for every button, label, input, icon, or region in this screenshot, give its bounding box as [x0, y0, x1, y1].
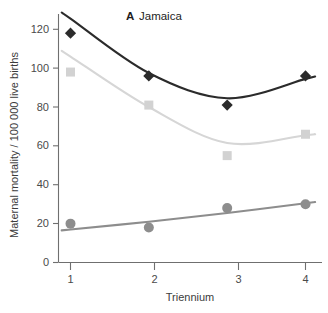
x-tick-label: 1	[67, 273, 73, 285]
y-tick-label: 20	[37, 217, 49, 229]
x-tick-label: 4	[302, 273, 308, 285]
data-point-square	[66, 68, 75, 77]
y-tick-label: 0	[43, 256, 49, 268]
data-point-circle	[301, 199, 311, 209]
maternal-mortality-chart: 0 20 40 60 80 100 120 1 2 3 4 Triennium …	[0, 0, 328, 313]
chart-background	[0, 0, 328, 313]
data-point-circle	[222, 203, 232, 213]
data-point-square	[301, 130, 310, 139]
x-tick-label: 2	[151, 273, 157, 285]
y-tick-label: 120	[31, 23, 49, 35]
x-tick-label: 3	[235, 273, 241, 285]
y-tick-label: 80	[37, 101, 49, 113]
y-tick-label: 100	[31, 62, 49, 74]
data-point-square	[144, 101, 153, 110]
chart-figure: 0 20 40 60 80 100 120 1 2 3 4 Triennium …	[0, 0, 328, 313]
panel-letter: A	[126, 10, 134, 22]
y-tick-label: 60	[37, 139, 49, 151]
data-point-square	[223, 151, 232, 160]
data-point-circle	[144, 223, 154, 233]
data-point-circle	[66, 219, 76, 229]
panel-title: Jamaica	[139, 10, 182, 22]
y-tick-label: 40	[37, 178, 49, 190]
x-axis-title: Triennium	[166, 291, 215, 303]
y-axis-title: Maternal mortality / 100 000 live births	[8, 52, 20, 238]
